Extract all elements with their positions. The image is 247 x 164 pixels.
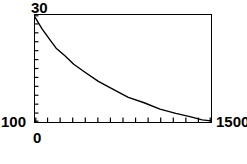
plot-area [34,14,212,123]
y-axis-max-label: 30 [31,0,48,15]
x-axis-min-label: 0 [33,130,41,145]
x-axis-max-label: 1500 [216,114,247,129]
chart-figure: 30 100 0 1500 [0,0,247,164]
data-series-decay-curve [35,17,211,121]
x-axis-ticks [36,118,210,122]
curve-svg [35,15,211,122]
y-axis-min-label: 100 [1,114,26,129]
y-axis-ticks [35,16,38,121]
